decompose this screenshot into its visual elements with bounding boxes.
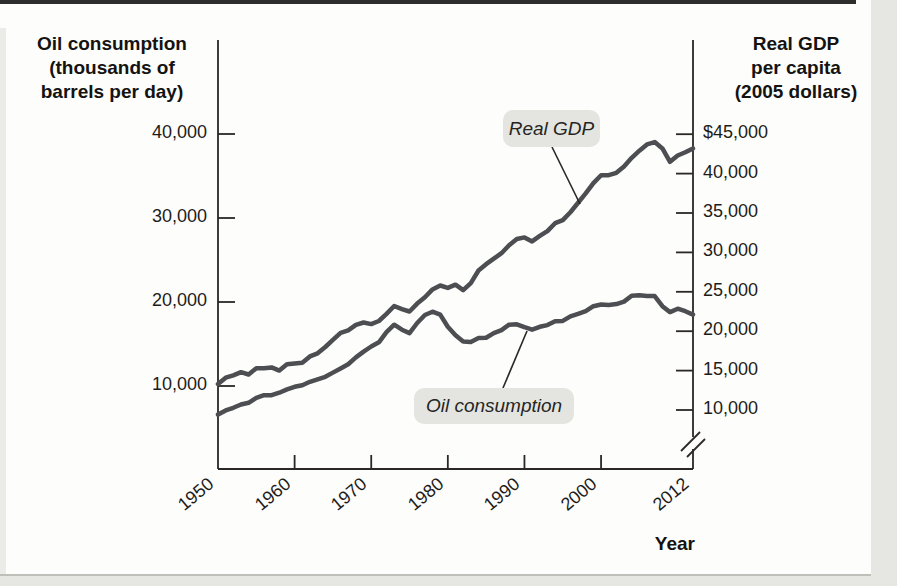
y-right-tick-label: 20,000 [703, 319, 813, 340]
x-tick-label: 1950 [155, 458, 237, 532]
y-right-tick-label: 25,000 [703, 280, 813, 301]
y-right-tick-label: 15,000 [703, 359, 813, 380]
y-left-tick-label: 40,000 [60, 122, 207, 143]
y-right-axis-title-line: per capita [710, 56, 882, 80]
y-right-tick-label: $45,000 [703, 122, 813, 143]
y-right-axis-title-line: Real GDP [710, 32, 882, 56]
x-tick-label: 2012 [630, 458, 712, 532]
x-tick-label: 1990 [461, 458, 543, 532]
y-left-tick-label: 30,000 [60, 206, 207, 227]
y-left-tick-label: 10,000 [60, 374, 207, 395]
y-right-tick-label: 10,000 [703, 398, 813, 419]
y-right-axis-title: Real GDP per capita (2005 dollars) [710, 32, 882, 104]
y-right-tick-label: 35,000 [703, 201, 813, 222]
x-tick-label: 1970 [308, 458, 390, 532]
y-right-axis-title-line: (2005 dollars) [710, 80, 882, 104]
y-left-axis-title-line: Oil consumption [16, 32, 208, 56]
y-left-axis-title: Oil consumption (thousands of barrels pe… [16, 32, 208, 104]
labels-layer: Oil consumption (thousands of barrels pe… [0, 0, 897, 586]
y-left-axis-title-line: (thousands of [16, 56, 208, 80]
oil-consumption-label: Oil consumption [414, 388, 574, 424]
y-right-tick-label: 30,000 [703, 240, 813, 261]
real-gdp-label: Real GDP [503, 110, 600, 147]
y-left-axis-title-line: barrels per day) [16, 80, 208, 104]
x-tick-label: 1960 [231, 458, 313, 532]
x-tick-label: 1980 [385, 458, 467, 532]
y-left-tick-label: 20,000 [60, 290, 207, 311]
y-right-tick-label: 40,000 [703, 162, 813, 183]
x-axis-title: Year [600, 533, 695, 555]
textbook-figure: Oil consumption (thousands of barrels pe… [0, 0, 897, 586]
x-tick-label: 2000 [538, 458, 620, 532]
